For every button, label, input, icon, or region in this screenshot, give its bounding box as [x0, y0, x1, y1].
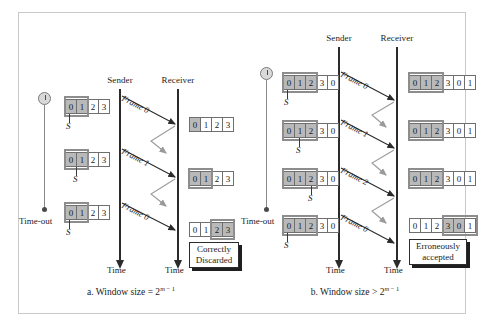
frame-arrows-b — [254, 13, 465, 313]
caption-a-text: a. Window size = 2 — [87, 287, 160, 297]
caption-panel-b: b. Window size > 2m − 1 — [280, 285, 430, 297]
note-line-2: accepted — [413, 252, 463, 263]
caption-b-text: b. Window size > 2 — [311, 287, 385, 297]
caption-a-exp-rest: − 1 — [165, 285, 175, 292]
note-line-1: Correctly — [193, 244, 235, 255]
cell: 1 — [464, 75, 476, 90]
note-correctly-discarded: Correctly Discarded — [189, 242, 239, 268]
note-line-2: Discarded — [193, 255, 235, 266]
cell: 1 — [464, 171, 476, 186]
figure-border: Sender Receiver Time Time Time-out 0 1 2… — [18, 12, 466, 314]
cell: 1 — [464, 218, 476, 233]
caption-panel-a: a. Window size = 2m − 1 — [61, 285, 201, 297]
note-line-1: Erroneously — [413, 241, 463, 252]
note-erroneously-accepted: Erroneously accepted — [409, 239, 467, 265]
panel-window-size-greater: Sender Receiver Time Time Time-out 0 1 2… — [254, 13, 465, 313]
caption-b-exp-rest: − 1 — [389, 285, 399, 292]
panel-window-size-equal: Sender Receiver Time Time Time-out 0 1 2… — [19, 13, 259, 313]
cell: 1 — [464, 123, 476, 138]
